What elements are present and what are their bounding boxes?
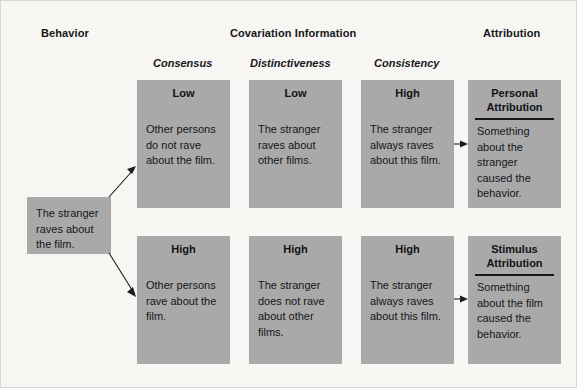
kelley-covariation-diagram: Behavior Covariation Information Attribu… xyxy=(0,0,577,388)
arrow-consistency-to-stimulus-attribution xyxy=(1,1,577,388)
